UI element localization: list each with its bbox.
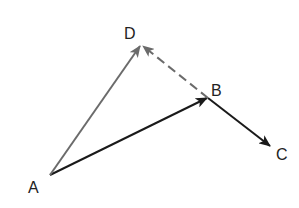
point-label-b: B [211,82,222,99]
vector-b-to-d-dashed [143,46,208,98]
vector-a-to-d [50,46,140,175]
point-label-a: A [28,179,39,196]
point-label-c: C [276,146,288,163]
vector-b-to-c [208,98,270,146]
vector-diagram: A B C D [0,0,299,208]
point-label-d: D [124,25,136,42]
vector-a-to-b [50,98,207,175]
